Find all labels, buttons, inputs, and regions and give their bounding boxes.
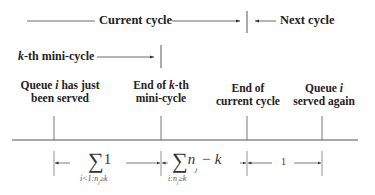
interval1-subscript: i<1:nj≥k [80,174,108,185]
interval1-formula: ∑1 [88,150,111,172]
sum-symbol: ∑ [172,148,188,173]
event-label-queue-served-again: Queue i served again [288,82,360,108]
mini-cycle-label: k-th mini-cycle [18,49,94,64]
interval2-subscript: i:nj≥k [168,174,186,185]
next-cycle-label: Next cycle [280,13,334,28]
event-label-queue-served: Queue i has just been served [8,79,112,105]
event-label-end-mini-cycle: End of k-th mini-cycle [118,79,204,105]
event-label-end-current-cycle: End of current cycle [208,82,288,108]
interval3-value: 1 [281,156,286,167]
interval2-formula: ∑nj − k [172,150,221,174]
current-cycle-label: Current cycle [99,13,172,28]
sum-symbol: ∑ [88,148,104,173]
